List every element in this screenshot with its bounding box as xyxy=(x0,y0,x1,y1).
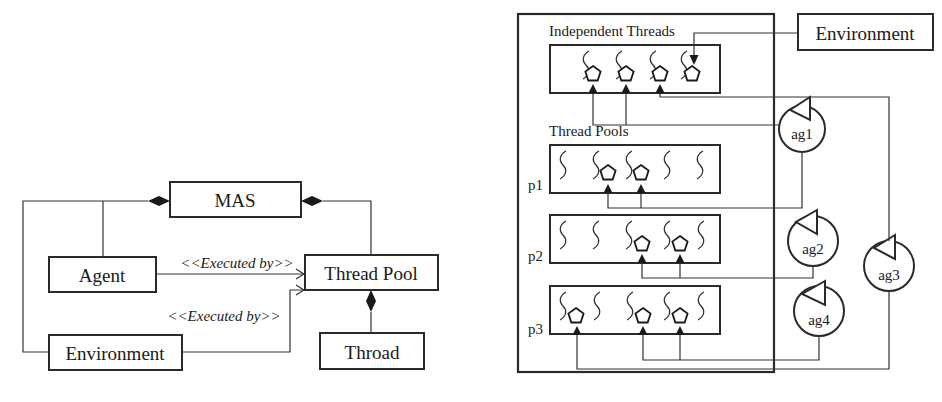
svg-text:ag3: ag3 xyxy=(878,267,900,283)
class-thread-pool-label: Thread Pool xyxy=(324,263,417,284)
composition-pool-thread xyxy=(366,290,376,333)
agent-ag2: ag2 xyxy=(788,210,838,266)
svg-text:ag2: ag2 xyxy=(802,241,824,257)
class-thread-pool: Thread Pool xyxy=(305,255,438,290)
class-mas: MAS xyxy=(170,182,301,217)
environment-box: Environment xyxy=(798,14,933,50)
class-agent-label: Agent xyxy=(79,265,126,286)
executed-by-label-1: <<Executed by>> xyxy=(180,255,293,271)
svg-text:ag1: ag1 xyxy=(791,126,813,142)
diamond-icon xyxy=(366,290,376,312)
class-agent: Agent xyxy=(49,257,156,292)
pool-p2: p2 xyxy=(528,215,720,264)
pool-p1-label: p1 xyxy=(528,177,543,193)
diamond-icon xyxy=(301,196,323,206)
class-mas-label: MAS xyxy=(214,190,255,211)
environment-label: Environment xyxy=(815,23,915,44)
pool-p1: p1 xyxy=(528,145,720,193)
pool-p3-label: p3 xyxy=(528,321,543,337)
diamond-icon xyxy=(148,196,170,206)
pool-p3: p3 xyxy=(528,286,720,337)
composition-mas-right xyxy=(301,196,371,255)
class-thread-label: Throad xyxy=(345,342,400,363)
class-environment-label: Environment xyxy=(65,343,165,364)
dependency-agent-pool: <<Executed by>> xyxy=(156,255,304,279)
diagram-canvas: MAS Agent Thread Pool Environment Throad xyxy=(0,0,942,402)
agent-ag3: ag3 xyxy=(864,235,914,291)
svg-text:ag4: ag4 xyxy=(808,312,830,328)
agent-ag4: ag4 xyxy=(794,281,844,336)
independent-threads-label: Independent Threads xyxy=(549,23,675,39)
class-environment: Environment xyxy=(49,335,182,370)
agent-ag1: ag1 xyxy=(779,97,825,152)
executed-by-label-2: <<Executed by>> xyxy=(167,308,280,324)
uml-class-diagram: MAS Agent Thread Pool Environment Throad xyxy=(23,182,438,370)
dependency-env-pool: <<Executed by>> xyxy=(167,285,304,352)
thread-architecture-diagram: Environment Independent Threads Thread P… xyxy=(518,14,933,372)
class-thread: Throad xyxy=(320,333,424,369)
pool-p2-label: p2 xyxy=(528,248,543,264)
